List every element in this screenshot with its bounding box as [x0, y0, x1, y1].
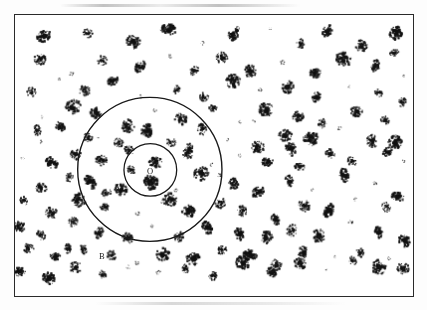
point-pattern-canvas [15, 15, 413, 296]
label-a: A [114, 183, 120, 192]
plot-frame: O A B [14, 14, 414, 297]
figure-root: O A B [0, 0, 427, 310]
scan-artifact-bottom [96, 302, 346, 305]
label-b: B [99, 252, 105, 261]
scan-artifact-top [60, 4, 300, 7]
label-o: O [147, 167, 153, 176]
